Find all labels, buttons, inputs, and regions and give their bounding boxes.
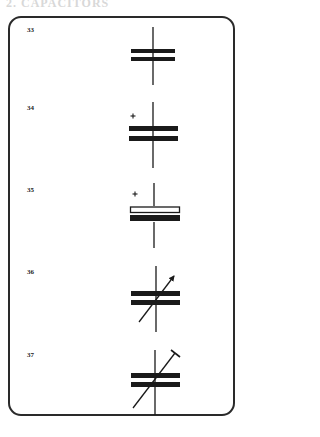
plus-sign-icon [133, 192, 138, 197]
capacitor-trimmer-icon [131, 350, 180, 415]
capacitor-variable-icon [131, 266, 180, 332]
capacitor-polarized-icon [129, 102, 178, 168]
trimmer-line-icon [133, 353, 175, 408]
capacitor-fixed-icon [131, 27, 175, 85]
plus-sign-icon [131, 114, 136, 119]
capacitor-electrolytic-icon [130, 183, 180, 248]
